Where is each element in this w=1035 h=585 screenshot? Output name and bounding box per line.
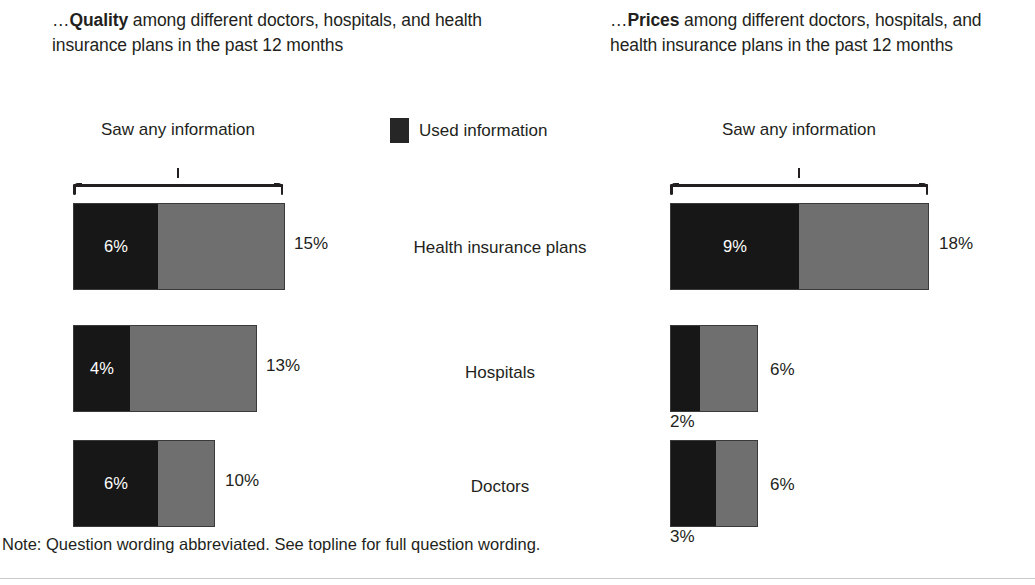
category-label-hospitals: Hospitals [465, 363, 535, 383]
category-label-health-insurance-plans: Health insurance plans [414, 238, 587, 258]
bar-right-health-used-segment: 9% [671, 204, 799, 289]
bar-right-hospitals-total-label: 6% [770, 360, 795, 380]
bar-left-doctors-used-label: 6% [104, 474, 128, 493]
left-bracket-hline [73, 184, 283, 187]
bar-right-doctors-used-segment [671, 441, 716, 526]
bar-left-doctors-total-label: 10% [225, 471, 259, 491]
left-bracket [73, 176, 283, 194]
bar-right-doctors-saw-segment [716, 441, 757, 526]
legend: Used information [390, 118, 548, 143]
left-heading-bold: Quality [69, 10, 128, 30]
bar-left-hospitals-used-label: 4% [90, 359, 114, 378]
bar-right-doctors [670, 440, 758, 527]
bar-right-doctors-total-label: 6% [770, 475, 795, 495]
right-bracket-end-right [926, 184, 929, 195]
bar-left-doctors: 6% [73, 440, 215, 527]
bar-left-health-total-label: 15% [294, 234, 328, 254]
left-bracket-stem [177, 168, 180, 178]
bar-right-health-saw-segment [799, 204, 928, 289]
bar-left-hospitals-saw-segment [130, 326, 256, 411]
right-bracket-end-left [670, 184, 673, 195]
bar-left-hospitals: 4% [73, 325, 257, 412]
bar-left-health-insurance-plans: 6% [73, 203, 285, 290]
bar-left-hospitals-used-segment: 4% [74, 326, 130, 411]
right-saw-any-information-label: Saw any information [670, 120, 928, 140]
left-bracket-end-left [73, 184, 76, 195]
bar-right-hospitals [670, 325, 758, 412]
footnote: Note: Question wording abbreviated. See … [2, 535, 540, 554]
left-bracket-end-right [281, 184, 284, 195]
legend-used-swatch-icon [390, 118, 409, 143]
bar-right-health-insurance-plans: 9% [670, 203, 929, 290]
footer-divider [0, 578, 1035, 579]
bar-left-health-saw-segment [158, 204, 284, 289]
bar-left-doctors-used-segment: 6% [74, 441, 158, 526]
legend-used-label: Used information [419, 121, 548, 141]
right-bracket [670, 176, 928, 194]
bar-right-health-total-label: 18% [939, 234, 973, 254]
left-heading-prefix: … [52, 10, 69, 30]
bar-right-hospitals-saw-segment [700, 326, 757, 411]
right-bracket-stem [798, 168, 801, 178]
category-label-doctors: Doctors [471, 477, 530, 497]
right-bracket-hline [670, 184, 928, 187]
bar-left-health-used-label: 6% [104, 237, 128, 256]
bar-left-hospitals-total-label: 13% [266, 356, 300, 376]
bar-left-health-used-segment: 6% [74, 204, 158, 289]
bar-right-hospitals-used-segment [671, 326, 700, 411]
right-heading-bold: Prices [627, 10, 679, 30]
left-saw-any-information-label: Saw any information [73, 120, 283, 140]
right-heading-prefix: … [610, 10, 627, 30]
left-panel-heading: …Quality among different doctors, hospit… [52, 8, 552, 58]
bar-right-doctors-used-label: 3% [670, 527, 695, 547]
right-panel-heading: …Prices among different doctors, hospita… [610, 8, 1030, 58]
bar-right-health-used-label: 9% [723, 237, 747, 256]
bar-left-doctors-saw-segment [158, 441, 214, 526]
bar-right-hospitals-used-label: 2% [670, 412, 695, 432]
chart-canvas: …Quality among different doctors, hospit… [0, 0, 1035, 585]
